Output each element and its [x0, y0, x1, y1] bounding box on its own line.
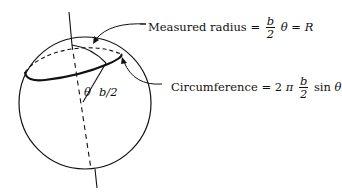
circumference-label: Circumference = 2 π b 2 sin θ: [171, 75, 342, 100]
small-circle-back: [25, 48, 121, 72]
axis-bottom: [95, 169, 97, 188]
fraction-b-over-2: b 2: [266, 15, 275, 40]
small-circle-front: [25, 54, 121, 80]
radius-b-half-label: b/2: [99, 87, 118, 99]
arrow-circumference: [124, 62, 162, 84]
sphere-outline: [19, 37, 151, 169]
measured-radius-label: Measured radius = b 2 θ = R: [148, 15, 313, 40]
angle-theta-label: θ: [84, 87, 91, 99]
arrow-measured-radius: [96, 24, 146, 39]
fraction-b-over-2: b 2: [299, 75, 308, 100]
arrow-head-circumference: [121, 57, 127, 64]
axis-top: [69, 12, 72, 45]
axis-dashed: [72, 45, 91, 169]
